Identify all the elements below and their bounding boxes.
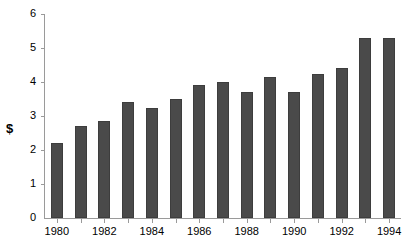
- x-tick-mark-1982: [104, 219, 105, 223]
- bar-1985: [170, 99, 182, 218]
- bar-1990: [288, 92, 300, 218]
- bar-1993: [359, 38, 371, 218]
- bar-1992: [336, 68, 348, 218]
- x-tick-mark-1980: [57, 219, 58, 223]
- x-tick-label-1992: 1992: [322, 226, 362, 237]
- x-tick-label-1990: 1990: [274, 226, 314, 237]
- y-tick-label-4: 4: [12, 76, 36, 87]
- x-tick-label-1982: 1982: [84, 226, 124, 237]
- x-tick-mark-1991: [318, 219, 319, 223]
- bar-1982: [98, 121, 110, 218]
- x-tick-mark-1985: [176, 219, 177, 223]
- x-tick-label-1986: 1986: [179, 226, 219, 237]
- bar-1987: [217, 82, 229, 218]
- x-tick-mark-1986: [199, 219, 200, 223]
- y-tick-label-2: 2: [12, 144, 36, 155]
- x-tick-mark-1988: [247, 219, 248, 223]
- x-tick-label-1984: 1984: [132, 226, 172, 237]
- plot-area: [45, 14, 401, 218]
- x-tick-label-1980: 1980: [37, 226, 77, 237]
- x-tick-mark-1981: [81, 219, 82, 223]
- x-tick-mark-1989: [270, 219, 271, 223]
- bar-1991: [312, 74, 324, 219]
- y-axis-title: $: [6, 122, 13, 135]
- y-tick-label-5: 5: [12, 42, 36, 53]
- x-tick-label-1994: 1994: [369, 226, 404, 237]
- bar-1983: [122, 102, 134, 218]
- x-tick-mark-1987: [223, 219, 224, 223]
- x-tick-mark-1993: [365, 219, 366, 223]
- bar-chart: $ 0123456 198019821984198619881990199219…: [0, 0, 404, 248]
- x-tick-mark-1992: [342, 219, 343, 223]
- y-tick-label-3: 3: [12, 110, 36, 121]
- y-tick-label-0: 0: [12, 212, 36, 223]
- bar-1989: [264, 77, 276, 218]
- x-tick-label-1988: 1988: [227, 226, 267, 237]
- x-tick-mark-1994: [389, 219, 390, 223]
- bar-1980: [51, 143, 63, 218]
- x-tick-mark-1984: [152, 219, 153, 223]
- x-tick-mark-1983: [128, 219, 129, 223]
- y-tick-label-1: 1: [12, 178, 36, 189]
- bar-1984: [146, 108, 158, 219]
- bar-1994: [383, 38, 395, 218]
- bar-1981: [75, 126, 87, 218]
- bar-1988: [241, 92, 253, 218]
- x-tick-mark-1990: [294, 219, 295, 223]
- bar-1986: [193, 85, 205, 218]
- y-tick-label-6: 6: [12, 8, 36, 19]
